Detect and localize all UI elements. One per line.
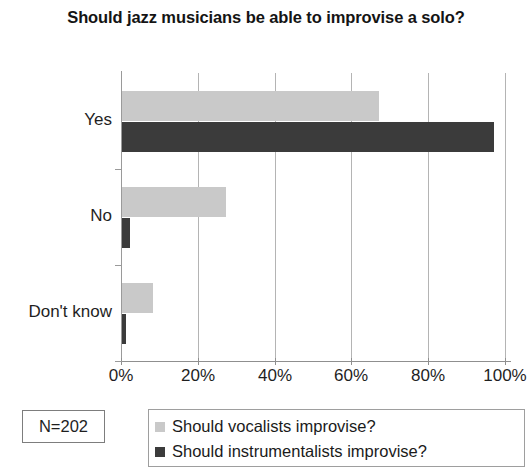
chart-title: Should jazz musicians be able to improvi…: [36, 6, 496, 28]
x-tick-label: 0%: [86, 366, 156, 386]
bar-instrumentalists-yes: [122, 122, 494, 152]
x-axis-line: [115, 361, 511, 362]
bar-vocalists-yes: [122, 91, 379, 121]
sample-size-label: N=202: [39, 417, 88, 436]
legend-label-vocalists: Should vocalists improvise?: [172, 417, 376, 436]
bar-instrumentalists-don-t-know: [122, 314, 126, 344]
legend-entry-instrumentalists[interactable]: Should instrumentalists improvise?: [155, 439, 524, 464]
y-tick-mark: [115, 361, 122, 362]
legend-entry-vocalists[interactable]: Should vocalists improvise?: [155, 414, 524, 439]
x-tick-label: 20%: [163, 366, 233, 386]
bar-vocalists-don-t-know: [122, 283, 153, 313]
legend-swatch-instrumentalists: [155, 447, 165, 457]
x-tick-label: 40%: [240, 366, 310, 386]
x-tick-label: 80%: [393, 366, 463, 386]
legend-label-instrumentalists: Should instrumentalists improvise?: [172, 442, 427, 461]
y-category-label: No: [0, 206, 112, 226]
x-tick-mark: [505, 358, 506, 365]
x-tick-label: 100%: [470, 366, 532, 386]
x-tick-label: 60%: [316, 366, 386, 386]
x-tick-mark: [198, 358, 199, 365]
chart-legend: Should vocalists improvise? Should instr…: [148, 409, 525, 467]
x-gridline: [428, 73, 429, 361]
x-tick-mark: [275, 358, 276, 365]
y-tick-mark: [115, 169, 122, 170]
legend-swatch-vocalists: [155, 422, 165, 432]
x-tick-mark: [351, 358, 352, 365]
bar-instrumentalists-no: [122, 218, 130, 248]
y-tick-mark: [115, 265, 122, 266]
x-gridline: [505, 73, 506, 361]
bar-vocalists-no: [122, 187, 226, 217]
x-tick-mark: [428, 358, 429, 365]
y-category-label: Yes: [0, 110, 112, 130]
y-category-label: Don't know: [0, 302, 112, 322]
sample-size-box: N=202: [22, 410, 105, 443]
